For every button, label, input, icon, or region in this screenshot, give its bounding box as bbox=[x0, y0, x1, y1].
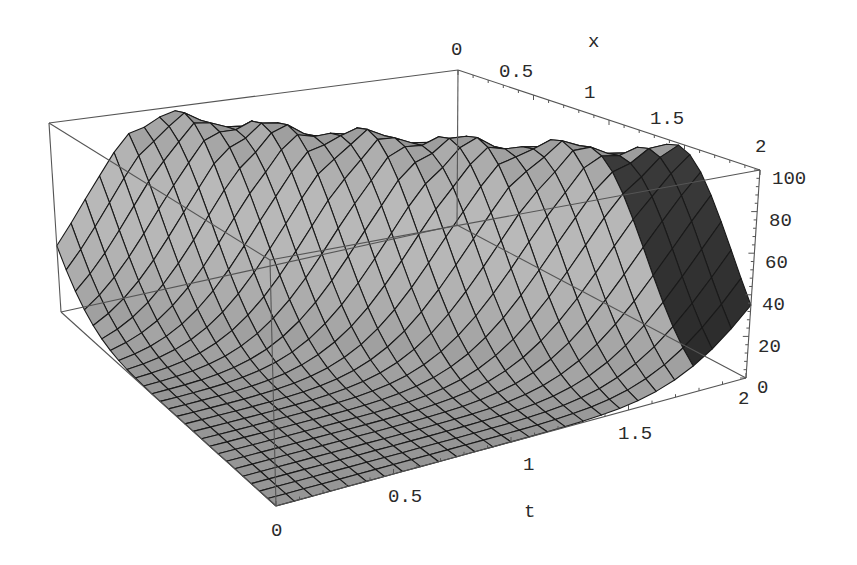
box-edge bbox=[49, 70, 458, 123]
t-tick-label: 0 bbox=[271, 520, 282, 542]
t-tick-label: 0.5 bbox=[388, 486, 422, 508]
z-tick-label: 80 bbox=[769, 210, 792, 232]
x-tick-label: 0.5 bbox=[499, 61, 533, 83]
z-tick-label: 20 bbox=[758, 336, 781, 358]
z-tick-label: 60 bbox=[765, 252, 788, 274]
z-axis: 100 80 60 40 20 0 bbox=[757, 168, 806, 399]
x-tick-label: 0 bbox=[451, 39, 462, 61]
z-tick-label: 100 bbox=[772, 168, 806, 190]
t-tick-label: 1.5 bbox=[618, 423, 652, 445]
x-tick-label: 1.5 bbox=[650, 108, 684, 130]
t-tick-label: 1 bbox=[523, 454, 534, 476]
t-tick-label: 2 bbox=[738, 388, 749, 410]
x-axis-title: x bbox=[588, 31, 599, 53]
t-axis-title: t bbox=[524, 501, 535, 523]
x-axis: x 0 0.5 1 1.5 2 bbox=[451, 31, 766, 158]
box-edge bbox=[49, 123, 61, 312]
surface-plot: x 0 0.5 1 1.5 2 100 80 60 40 20 0 t 0 0.… bbox=[0, 0, 857, 565]
x-tick-label: 2 bbox=[755, 136, 766, 158]
z-tick-label: 40 bbox=[762, 294, 785, 316]
surface-mesh bbox=[57, 111, 751, 506]
z-tick-label: 0 bbox=[757, 377, 768, 399]
x-tick-label: 1 bbox=[584, 82, 595, 104]
